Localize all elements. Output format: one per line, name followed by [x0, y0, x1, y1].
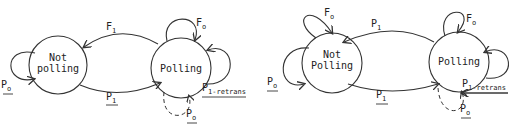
self-loop-arrow: [304, 15, 332, 38]
transition-label: Fo: [196, 17, 206, 31]
transition-label: Po: [1, 79, 11, 93]
transition-label: P1: [371, 18, 381, 32]
diagram-left: Not polling Polling F1 P1 Po Fo P1-retra…: [1, 17, 246, 123]
diagram-right: Not Polling Polling P1 P1 Fo Po Fo P1-re…: [267, 7, 508, 118]
state-diagrams: Not polling Polling F1 P1 Po Fo P1-retra…: [0, 0, 527, 138]
state-label: Not: [49, 52, 67, 63]
transition-label: Po: [460, 103, 470, 117]
state-label: Not: [323, 49, 341, 60]
state-label: polling: [37, 63, 79, 74]
transition-arrow: [348, 84, 438, 91]
transition-label: Po: [267, 76, 277, 90]
transition-arrow: [80, 83, 160, 93]
transition-arrow: [344, 31, 434, 42]
transition-label: Po: [186, 108, 196, 122]
state-label: Polling: [311, 60, 353, 71]
state-label: Polling: [160, 63, 202, 74]
transition-label: Fo: [466, 13, 476, 27]
transition-arrow: [84, 34, 158, 47]
transition-label: Fo: [324, 7, 334, 21]
transition-label: P1: [106, 91, 116, 105]
self-loop-arrow: [283, 48, 309, 85]
transition-label: P1-retrans: [462, 78, 506, 92]
self-loop-arrow: [206, 49, 230, 84]
state-label: Polling: [438, 56, 480, 67]
transition-label: F1: [106, 21, 116, 35]
